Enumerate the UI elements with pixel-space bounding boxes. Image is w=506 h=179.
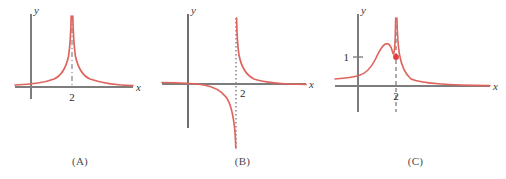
curve-branch-right bbox=[237, 18, 306, 84]
panel-b: y x 2 (B) bbox=[160, 0, 325, 179]
panel-c: y x 1 2 (C) bbox=[325, 0, 506, 179]
panel-b-caption: (B) bbox=[160, 155, 325, 167]
x-axis-label: x bbox=[492, 80, 498, 92]
x-tick-label-2: 2 bbox=[69, 91, 75, 103]
defined-point-marker bbox=[393, 54, 399, 60]
x-tick-label-2: 2 bbox=[393, 90, 399, 102]
panel-c-caption: (C) bbox=[325, 155, 506, 167]
y-axis-label: y bbox=[360, 4, 366, 16]
panel-b-plot: y x 2 bbox=[160, 0, 325, 179]
curve-branch-left bbox=[335, 18, 396, 79]
y-tick-label-1: 1 bbox=[344, 51, 350, 63]
panel-a: y x 2 (A) bbox=[0, 0, 160, 179]
x-axis-label: x bbox=[308, 78, 314, 90]
figure-container: y x 2 (A) y x 2 (B) bbox=[0, 0, 506, 179]
curve-branch-left bbox=[162, 83, 236, 149]
curve-branch-right bbox=[73, 16, 133, 86]
panel-c-plot: y x 1 2 bbox=[325, 0, 506, 179]
curve-branch-right bbox=[397, 18, 490, 86]
y-axis-label: y bbox=[190, 4, 196, 16]
panel-a-plot: y x 2 bbox=[0, 0, 160, 179]
x-axis-label: x bbox=[135, 81, 141, 93]
y-axis-label: y bbox=[33, 4, 39, 16]
x-tick-label-2: 2 bbox=[240, 87, 246, 99]
curve-branch-left bbox=[15, 16, 71, 85]
panel-a-caption: (A) bbox=[0, 155, 160, 167]
